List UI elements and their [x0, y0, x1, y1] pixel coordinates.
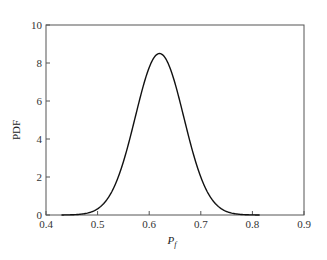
y-tick-label: 0 — [37, 209, 43, 221]
x-tick-label: 0.6 — [142, 218, 156, 230]
x-tick-label: 0.5 — [91, 218, 105, 230]
y-tick-label: 2 — [37, 171, 43, 183]
x-tick-label: 0.8 — [246, 218, 260, 230]
pdf-chart: 0.40.50.60.70.80.9 0246810 PDF Pf — [0, 0, 327, 260]
x-tick-label: 0.7 — [194, 218, 208, 230]
y-tick-label: 6 — [37, 95, 43, 107]
y-tick-label: 10 — [31, 19, 43, 31]
y-axis-ticks: 0246810 — [31, 19, 50, 221]
plot-frame — [46, 25, 304, 215]
x-axis-label: Pf — [167, 234, 179, 249]
pdf-curve — [61, 54, 259, 215]
y-tick-label: 8 — [37, 57, 43, 69]
y-axis-label: PDF — [10, 120, 22, 140]
y-tick-label: 4 — [37, 133, 43, 145]
x-tick-label: 0.9 — [297, 218, 311, 230]
